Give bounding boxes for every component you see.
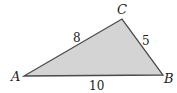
vertex-label-b: B — [163, 71, 174, 86]
side-length-ac: 8 — [73, 31, 81, 45]
vertex-label-a: A — [10, 69, 20, 84]
side-length-ab: 10 — [89, 79, 104, 93]
triangle-diagram: A B C 8 5 10 — [0, 0, 177, 93]
side-length-cb: 5 — [142, 34, 150, 48]
vertex-label-c: C — [117, 2, 127, 17]
